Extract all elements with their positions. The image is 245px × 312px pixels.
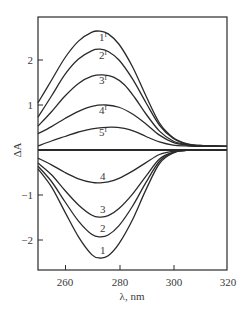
curve-labels: 1I2I3I4I5I4321 (99, 31, 108, 256)
curve-label-5-prime: 5I (99, 126, 108, 138)
curve-5-prime (38, 127, 227, 146)
x-axis-label: λ, nm (120, 290, 145, 302)
curve-4-prime (38, 105, 227, 146)
x-tick-label-320: 320 (220, 276, 237, 288)
curve-label-1-prime: 1I (99, 31, 108, 43)
y-tick-label-neg2: −2 (21, 234, 33, 246)
curve-label-3: 3 (100, 203, 106, 215)
y-axis-label: ΔA (11, 142, 23, 157)
y-tick-label-1: 1 (28, 99, 34, 111)
curves (38, 31, 227, 258)
curve-label-2: 2 (100, 222, 106, 234)
y-tick-label-2: 2 (28, 54, 34, 66)
x-tick-label-300: 300 (166, 276, 183, 288)
chart: 260 280 300 320 λ, nm 2 1 −1 −2 ΔA 1I2I3… (0, 0, 245, 312)
x-tick-label-280: 280 (112, 276, 129, 288)
curve-label-3-prime: 3I (99, 74, 108, 86)
curve-1-prime (38, 31, 227, 146)
x-tick-label-260: 260 (57, 276, 74, 288)
curve-label-1: 1 (100, 244, 106, 256)
curve-label-4: 4 (100, 170, 106, 182)
curve-label-4-prime: 4I (99, 104, 108, 116)
curve-2-prime (38, 49, 227, 146)
curve-4 (38, 150, 227, 183)
curve-label-2-prime: 2I (99, 49, 108, 61)
y-tick-label-neg1: −1 (21, 189, 33, 201)
